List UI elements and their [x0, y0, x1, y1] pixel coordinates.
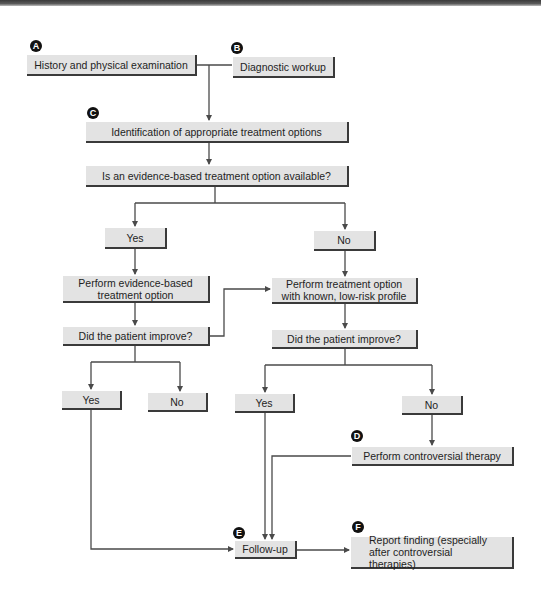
node-improve-right: Did the patient improve? [272, 330, 418, 349]
node-follow-up: Follow-up [235, 541, 297, 559]
node-evidence-question: Is an evidence-based treatment option av… [86, 166, 349, 187]
node-history: History and physical examination [27, 55, 197, 76]
node-report-finding: Report finding (especially after controv… [351, 537, 514, 569]
badge-c: C [87, 107, 99, 119]
badge-b: B [231, 42, 243, 54]
node-no-right: No [402, 396, 463, 415]
badge-e: E [233, 527, 245, 539]
badge-d: D [351, 430, 363, 442]
node-improve-left: Did the patient improve? [63, 327, 210, 346]
node-no-left: No [148, 393, 208, 412]
node-yes-right: Yes [235, 394, 295, 413]
node-yes-evidence: Yes [105, 228, 167, 249]
node-perform-low-risk: Perform treatment option with known, low… [272, 278, 418, 304]
node-yes-left: Yes [62, 391, 122, 410]
badge-a: A [30, 40, 42, 52]
badge-f: F [352, 521, 364, 533]
node-workup: Diagnostic workup [233, 57, 335, 78]
node-no-evidence: No [314, 231, 376, 251]
node-identify: Identification of appropriate treatment … [86, 122, 349, 143]
node-perform-evidence-based: Perform evidence-based treatment option [63, 276, 210, 303]
node-controversial-therapy: Perform controversial therapy [352, 447, 514, 466]
